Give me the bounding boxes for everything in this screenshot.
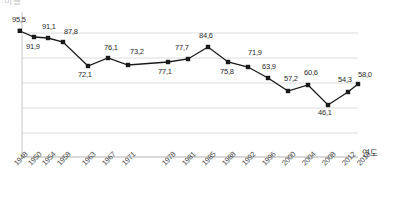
value-label: 57,2 [284,74,298,83]
value-label: 95,5 [12,15,26,24]
value-label: 91,9 [26,42,40,51]
value-label: 58,0 [358,70,372,79]
value-label: 87,8 [64,27,78,36]
value-label: 72,1 [78,70,92,79]
value-label: 46,1 [318,108,332,117]
value-label: 63,9 [262,62,276,71]
plot-area [0,0,394,197]
value-label: 54,3 [338,75,352,84]
turnout-line-chart: 비율 [0,0,394,197]
value-label: 77,7 [175,43,189,52]
value-label: 71,9 [248,48,262,57]
value-label: 73,2 [130,47,144,56]
value-label: 84,6 [199,31,213,40]
value-label: 60,6 [304,68,318,77]
x-axis-title: 연도 [362,146,378,158]
value-label: 77,1 [158,67,172,76]
value-label: 75,8 [220,67,234,76]
value-label: 91,1 [42,22,56,31]
value-label: 76,1 [104,43,118,52]
